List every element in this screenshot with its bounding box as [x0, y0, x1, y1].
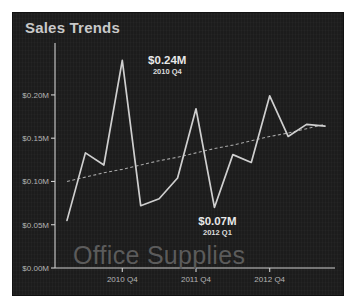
- y-axis-tick-label: $0.20M: [22, 91, 49, 100]
- x-axis-tick-label: 2011 Q4: [181, 275, 212, 284]
- chart-title: Sales Trends: [25, 19, 120, 36]
- y-axis-tick-label: $0.00M: [22, 264, 49, 273]
- x-axis-tick-label: 2010 Q4: [107, 275, 138, 284]
- y-axis-tick-label: $0.10M: [22, 177, 49, 186]
- x-axis-tick-group: 2010 Q42011 Q42012 Q4: [107, 268, 286, 284]
- min-annotation-label: 2012 Q1: [203, 228, 232, 237]
- sales-trends-chart-card: Sales Trends Office Supplies $0.00M$0.05…: [13, 13, 343, 295]
- min-annotation-value: $0.07M: [198, 215, 236, 227]
- y-axis-tick-group: $0.00M$0.05M$0.10M$0.15M$0.20M: [22, 91, 55, 273]
- y-axis-tick-label: $0.15M: [22, 134, 49, 143]
- max-annotation-value: $0.24M: [148, 54, 186, 66]
- x-axis-tick-label: 2012 Q4: [254, 275, 285, 284]
- sales-line-series: [67, 60, 325, 220]
- min-point-annotation: $0.07M 2012 Q1: [198, 215, 236, 237]
- max-annotation-label: 2010 Q4: [153, 67, 183, 76]
- max-point-annotation: $0.24M 2010 Q4: [148, 54, 186, 76]
- chart-watermark-category: Office Supplies: [73, 241, 245, 270]
- y-axis-tick-label: $0.05M: [22, 221, 49, 230]
